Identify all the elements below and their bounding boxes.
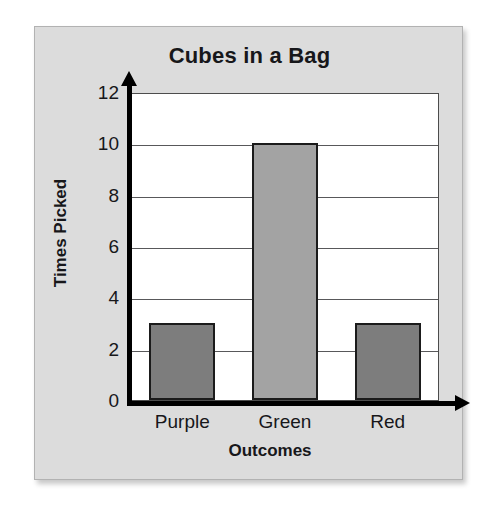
y-tick-label: 0 — [83, 390, 119, 412]
bar — [149, 323, 215, 400]
x-axis-tick-labels: PurpleGreenRed — [131, 411, 439, 437]
bar — [252, 143, 318, 400]
x-axis-title: Outcomes — [95, 441, 445, 461]
plot-area — [131, 93, 439, 401]
y-tick-label: 10 — [83, 133, 119, 155]
x-tick-label: Red — [336, 411, 439, 433]
y-tick-label: 8 — [83, 185, 119, 207]
y-tick-label: 12 — [83, 82, 119, 104]
y-axis-arrow-icon — [121, 71, 137, 86]
x-tick-label: Green — [234, 411, 337, 433]
x-axis-arrow-icon — [455, 395, 470, 411]
bars-group — [131, 94, 438, 400]
bar — [355, 323, 421, 400]
y-axis-tick-labels: 024681012 — [83, 87, 119, 405]
y-tick-label: 6 — [83, 236, 119, 258]
y-axis-line — [127, 83, 132, 405]
y-axis-title: Times Picked — [51, 163, 71, 303]
chart-title: Cubes in a Bag — [35, 43, 464, 69]
x-tick-label: Purple — [131, 411, 234, 433]
x-axis-line — [127, 401, 457, 406]
y-tick-label: 4 — [83, 287, 119, 309]
chart-panel: Cubes in a Bag Times Picked 024681012 Pu… — [34, 26, 463, 480]
y-tick-label: 2 — [83, 339, 119, 361]
